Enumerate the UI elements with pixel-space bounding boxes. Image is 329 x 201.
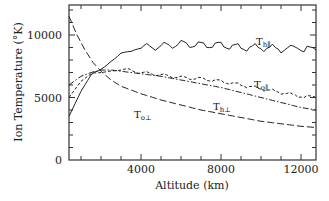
series-lines [69,16,316,127]
y-axis-title: Ion Temperature (°K) [12,22,25,141]
series-labels: Th∥To∥Th⊥To⊥ [134,36,270,122]
x-tick-label: 12000 [284,163,319,176]
y-tick-label: 5000 [34,92,62,105]
ion-temperature-chart: 4000800012000 0500010000 Th∥To∥Th⊥To⊥ Al… [0,0,329,201]
x-axis-title: Altitude (km) [154,179,229,192]
x-tick-label: 8000 [207,163,235,176]
series-label: To⊥ [134,109,151,122]
x-tick-label: 4000 [127,163,155,176]
series-label: Th⊥ [213,101,231,114]
y-tick-label: 0 [55,154,62,167]
series-line [69,40,316,116]
y-tick-labels: 0500010000 [27,29,62,167]
series-label: To∥ [254,79,268,92]
series-line [69,69,316,98]
y-tick-label: 10000 [27,29,62,42]
x-tick-labels: 4000800012000 [127,163,319,176]
